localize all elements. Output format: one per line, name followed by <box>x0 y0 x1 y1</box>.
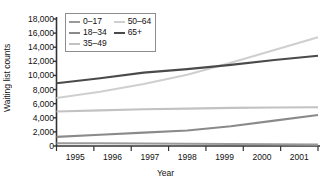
legend-label: 18–34 <box>83 28 107 37</box>
legend-line-swatch-icon <box>69 21 80 23</box>
plot-area <box>0 0 331 187</box>
line-chart: Waiting list counts 02,0004,0006,0008,00… <box>0 0 331 187</box>
legend-entry: 65+ <box>114 27 152 38</box>
legend-label: 50–64 <box>128 17 152 26</box>
legend-entry: 0–17 <box>69 16 107 27</box>
legend-line-swatch-icon <box>69 43 80 45</box>
legend-entry: 50–64 <box>114 16 152 27</box>
legend-line-swatch-icon <box>114 21 125 23</box>
x-axis-title: Year <box>0 168 331 178</box>
legend-label: 0–17 <box>83 17 102 26</box>
legend-label: 65+ <box>128 28 142 37</box>
legend-label: 35–49 <box>83 39 107 48</box>
legend-line-swatch-icon <box>114 32 125 34</box>
legend-line-swatch-icon <box>69 32 80 34</box>
legend-entry: 18–34 <box>69 27 107 38</box>
chart-legend: 0–1718–3435–4950–6465+ <box>65 13 156 52</box>
legend-entry: 35–49 <box>69 38 107 49</box>
